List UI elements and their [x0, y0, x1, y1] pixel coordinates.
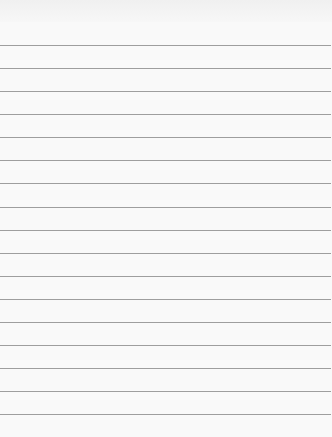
- ruled-line: [0, 91, 331, 92]
- ruled-line: [0, 68, 331, 69]
- ruled-line: [0, 114, 331, 115]
- ruled-line: [0, 230, 331, 231]
- ruled-line: [0, 414, 331, 415]
- ruled-line: [0, 137, 331, 138]
- page-header-faded: [0, 0, 332, 22]
- ruled-line: [0, 45, 331, 46]
- ruled-line: [0, 160, 331, 161]
- ruled-line: [0, 276, 331, 277]
- ruled-line: [0, 253, 331, 254]
- ruled-line: [0, 391, 331, 392]
- ruled-line: [0, 322, 331, 323]
- ruled-line: [0, 345, 331, 346]
- ruled-line: [0, 368, 331, 369]
- ruled-line: [0, 183, 331, 184]
- lined-paper-page: [0, 0, 332, 437]
- ruled-line: [0, 207, 331, 208]
- ruled-line: [0, 299, 331, 300]
